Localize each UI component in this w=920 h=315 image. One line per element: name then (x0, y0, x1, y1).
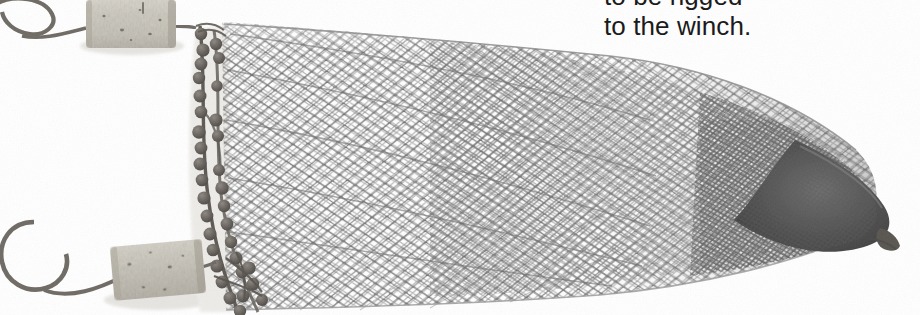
fishing-net-photograph (0, 0, 920, 315)
caption-visible-line: to the winch. (604, 11, 751, 41)
photo-grain (0, 0, 920, 315)
caption-clipped-line: to be rigged (604, 0, 743, 11)
screenshot-root: to be rigged to the winch. (0, 0, 920, 315)
